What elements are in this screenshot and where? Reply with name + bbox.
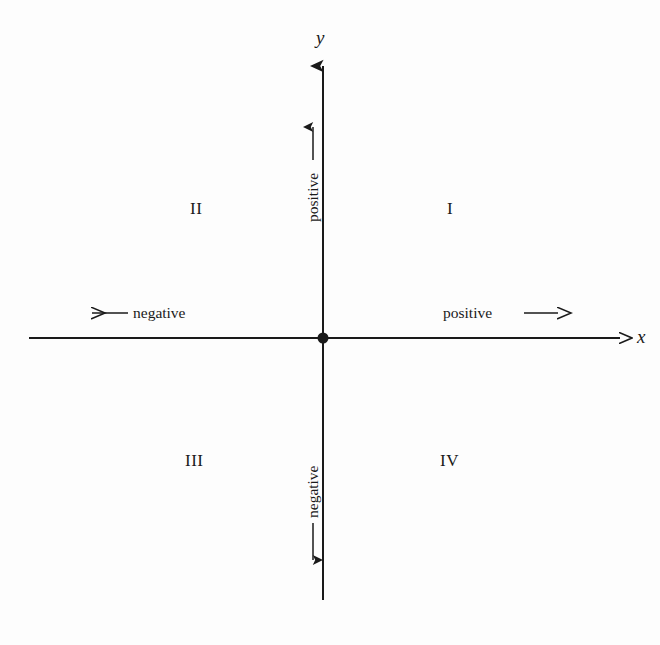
axes-drawing — [0, 0, 660, 645]
quadrant-label-iii: III — [185, 452, 203, 469]
x-negative-direction-label: negative — [133, 305, 186, 321]
quadrant-label-i: I — [447, 200, 453, 217]
y-positive-direction-label: positive — [305, 173, 321, 222]
x-positive-direction-label: positive — [443, 305, 492, 321]
y-axis-label: y — [316, 28, 324, 47]
coordinate-plane-figure: x y I II III IV negative positive positi… — [0, 0, 660, 645]
quadrant-label-ii: II — [190, 200, 202, 217]
x-axis-label: x — [637, 327, 645, 346]
origin-dot — [318, 333, 329, 344]
quadrant-label-iv: IV — [440, 452, 459, 469]
y-negative-direction-label: negative — [305, 465, 321, 518]
